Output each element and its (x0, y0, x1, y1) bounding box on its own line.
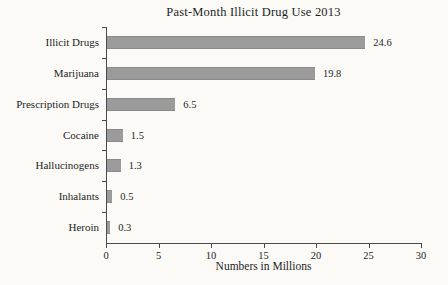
bar-chart-figure: Past-Month Illicit Drug Use 2013 Numbers… (0, 0, 448, 285)
category-label-inhalants: Inhalants (0, 189, 99, 204)
category-label-illicit-drugs: Illicit Drugs (0, 35, 99, 50)
value-label-prescription-drugs: 6.5 (183, 97, 196, 112)
value-label-illicit-drugs: 24.6 (373, 35, 391, 50)
value-label-cocaine: 1.5 (131, 128, 144, 143)
y-axis-tick-5 (102, 181, 106, 182)
category-label-heroin: Heroin (0, 220, 99, 235)
value-label-inhalants: 0.5 (120, 189, 133, 204)
x-axis-tick-2 (211, 244, 212, 248)
category-label-prescription-drugs: Prescription Drugs (0, 97, 99, 112)
bar-cocaine (107, 129, 123, 142)
bar-marijuana (107, 67, 315, 80)
x-axis-tick-5 (369, 244, 370, 248)
bar-inhalants (107, 190, 112, 203)
value-label-heroin: 0.3 (118, 220, 131, 235)
y-axis-tick-0 (102, 27, 106, 28)
x-axis-tick-label-0: 0 (91, 250, 121, 262)
x-axis-tick-label-3: 15 (249, 250, 279, 262)
bar-hallucinogens (107, 159, 121, 172)
x-axis-tick-3 (264, 244, 265, 248)
category-label-hallucinogens: Hallucinogens (0, 158, 99, 173)
x-axis-tick-4 (316, 244, 317, 248)
bar-heroin (107, 221, 110, 234)
x-axis-tick-label-5: 25 (354, 250, 384, 262)
category-label-marijuana: Marijuana (0, 66, 99, 81)
x-axis-tick-6 (421, 244, 422, 248)
category-label-cocaine: Cocaine (0, 128, 99, 143)
value-label-hallucinogens: 1.3 (129, 158, 142, 173)
x-axis-tick-label-2: 10 (196, 250, 226, 262)
y-axis-tick-1 (102, 58, 106, 59)
x-axis-tick-label-1: 5 (144, 250, 174, 262)
x-axis-tick-label-6: 30 (406, 250, 436, 262)
bar-prescription-drugs (107, 98, 175, 111)
x-axis-tick-0 (106, 244, 107, 248)
plot-area (106, 27, 422, 244)
y-axis-tick-6 (102, 212, 106, 213)
y-axis-tick-2 (102, 89, 106, 90)
y-axis-tick-4 (102, 150, 106, 151)
x-axis-tick-1 (159, 244, 160, 248)
y-axis-tick-3 (102, 120, 106, 121)
x-axis-tick-label-4: 20 (301, 250, 331, 262)
bar-illicit-drugs (107, 36, 365, 49)
chart-title: Past-Month Illicit Drug Use 2013 (96, 5, 411, 20)
value-label-marijuana: 19.8 (323, 66, 341, 81)
